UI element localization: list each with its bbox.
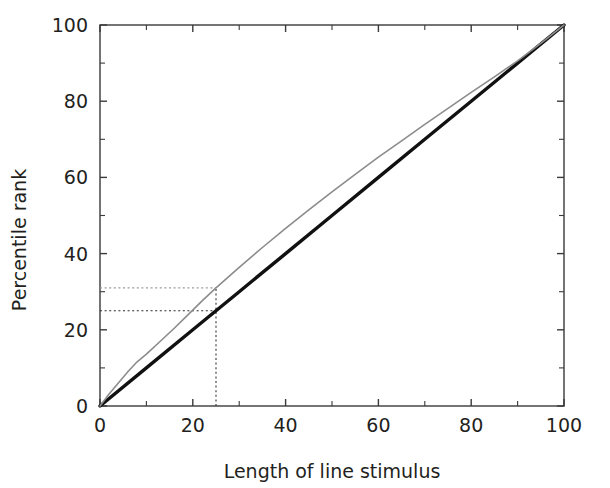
x-tick-label: 40 — [274, 414, 298, 436]
x-tick-label: 100 — [546, 414, 582, 436]
y-tick-label: 80 — [64, 90, 88, 112]
y-tick-label: 0 — [76, 395, 88, 417]
y-tick-label: 60 — [64, 166, 88, 188]
x-axis-title: Length of line stimulus — [224, 460, 441, 482]
x-tick-label: 80 — [459, 414, 483, 436]
x-tick-label: 0 — [94, 414, 106, 436]
y-tick-label: 40 — [64, 243, 88, 265]
y-tick-label: 20 — [64, 319, 88, 341]
chart-background — [0, 0, 610, 488]
x-tick-label: 20 — [181, 414, 205, 436]
y-tick-label: 100 — [52, 14, 88, 36]
x-tick-label: 60 — [366, 414, 390, 436]
y-axis-title: Percentile rank — [8, 169, 30, 311]
percentile-rank-chart: 020406080100 020406080100 Length of line… — [0, 0, 610, 488]
